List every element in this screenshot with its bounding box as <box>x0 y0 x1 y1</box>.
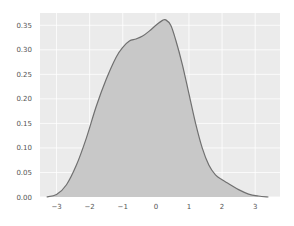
kde-chart: 0.000.050.100.150.200.250.300.35 −3−2−10… <box>0 0 294 226</box>
x-tick-label: −2 <box>84 203 94 211</box>
x-tick-label: 2 <box>220 203 224 211</box>
x-tick-label: 3 <box>253 203 257 211</box>
y-tick-label: 0.20 <box>16 95 32 103</box>
y-tick-label: 0.30 <box>16 46 32 54</box>
x-axis-ticks: −3−2−10123 <box>51 203 257 211</box>
x-tick-label: 0 <box>154 203 158 211</box>
y-tick-label: 0.10 <box>16 144 32 152</box>
y-axis-ticks: 0.000.050.100.150.200.250.300.35 <box>16 22 32 202</box>
x-tick-label: 1 <box>187 203 191 211</box>
y-tick-label: 0.35 <box>16 22 32 30</box>
y-tick-label: 0.15 <box>16 120 32 128</box>
y-tick-label: 0.00 <box>16 194 32 202</box>
x-tick-label: −1 <box>118 203 128 211</box>
y-tick-label: 0.05 <box>16 169 32 177</box>
y-tick-label: 0.25 <box>16 71 32 79</box>
x-tick-label: −3 <box>51 203 61 211</box>
